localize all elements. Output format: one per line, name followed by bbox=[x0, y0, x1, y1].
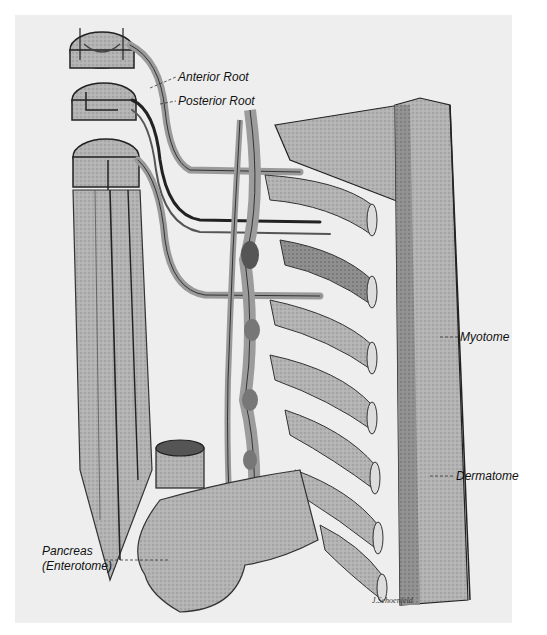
aorta bbox=[156, 440, 204, 488]
pancreas bbox=[138, 470, 318, 612]
spinal-columns bbox=[73, 190, 152, 580]
anatomical-illustration bbox=[0, 0, 547, 635]
anterior-root-label: Anterior Root bbox=[178, 70, 249, 84]
artist-signature: J.Schoenfeld bbox=[372, 596, 413, 605]
pancreas-label: Pancreas bbox=[42, 544, 93, 558]
myotome-label: Myotome bbox=[460, 330, 509, 344]
dermatome-label: Dermatome bbox=[456, 469, 519, 483]
enterotome-label: (Enterotome) bbox=[42, 559, 112, 573]
posterior-root-label: Posterior Root bbox=[178, 94, 255, 108]
spinal-cord-segments bbox=[70, 28, 139, 195]
